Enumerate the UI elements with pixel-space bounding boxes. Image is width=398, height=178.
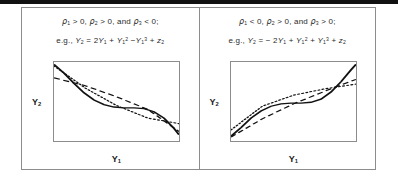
term1-sub: 1 xyxy=(283,40,286,46)
operator-2: + xyxy=(310,36,315,45)
rho-1-relation: < 0, xyxy=(250,17,264,26)
rho-3-relation: > 0; xyxy=(321,17,335,26)
panel-right-plot-area: Y2 xyxy=(200,54,376,150)
term1-sub: 1 xyxy=(104,40,107,46)
rho-1-subscript: 1 xyxy=(67,20,70,26)
rho-1-relation: > 0, xyxy=(73,17,87,26)
x-axis-label-right: Y1 xyxy=(289,154,298,164)
operator-3: + xyxy=(332,36,337,45)
equation-prefix: e.g., xyxy=(228,36,245,45)
equation-lhs-sub: 2 xyxy=(81,40,84,46)
plot-svg-right xyxy=(231,62,356,141)
operator-1: + xyxy=(109,36,114,45)
top-black-bar xyxy=(0,0,398,4)
y-axis-label-left: Y2 xyxy=(32,96,41,106)
equation-prefix: e.g., xyxy=(56,36,73,45)
plot-svg-left xyxy=(54,62,179,141)
plot-box-right xyxy=(230,61,357,142)
x-axis-label-left: Y1 xyxy=(112,154,121,164)
curve-dashed-right xyxy=(231,79,356,137)
panel-right-equation: e.g., Y2 = − 2Y1 + Y12 + Y13 + z2 xyxy=(228,36,346,45)
panel-left-condition: ρ1 > 0, ρ2 > 0, and ρ3 < 0; xyxy=(62,17,159,26)
rho-2-subscript: 2 xyxy=(95,20,98,26)
equation-equals: = xyxy=(86,36,91,45)
panel-left-plot-area: Y2 xyxy=(22,54,199,150)
x-axis-label-sub: 1 xyxy=(295,158,298,164)
curve-solid-left xyxy=(54,64,179,134)
rho-3-subscript: 3 xyxy=(139,20,142,26)
equation-equals: = − xyxy=(258,36,270,45)
rho-1-subscript: 1 xyxy=(244,20,247,26)
x-axis-label-sub: 1 xyxy=(118,158,121,164)
panel-left: ρ1 > 0, ρ2 > 0, and ρ3 < 0; e.g., Y2 = 2… xyxy=(22,8,199,169)
rho-3-subscript: 3 xyxy=(316,20,319,26)
term2-sup: 2 xyxy=(125,36,128,42)
panel-left-equation: e.g., Y2 = 2Y1 + Y12 −Y13 + z2 xyxy=(56,36,164,45)
term3-sup: 3 xyxy=(326,36,329,42)
y-axis-label-sub: 2 xyxy=(38,101,41,107)
term4-sub: 2 xyxy=(343,40,346,46)
plot-box-left xyxy=(53,61,180,142)
term3-sup: 3 xyxy=(144,36,147,42)
curve-dashed-left xyxy=(54,78,179,132)
rho-2-subscript: 2 xyxy=(272,20,275,26)
term2-sup: 2 xyxy=(305,36,308,42)
panel-right: ρ1 < 0, ρ2 > 0, and ρ3 > 0; e.g., Y2 = −… xyxy=(199,8,376,169)
operator-1: + xyxy=(289,36,294,45)
rho-2-relation: > 0, and xyxy=(100,17,131,26)
panel-container: ρ1 > 0, ρ2 > 0, and ρ3 < 0; e.g., Y2 = 2… xyxy=(21,7,376,170)
curve-dotted-right xyxy=(231,84,356,130)
y-axis-label-sub: 2 xyxy=(216,101,219,107)
rho-3-relation: < 0; xyxy=(144,17,158,26)
y-axis-label-right: Y2 xyxy=(210,96,219,106)
operator-3: + xyxy=(150,36,155,45)
term4-sub: 2 xyxy=(161,40,164,46)
equation-lhs-sub: 2 xyxy=(253,40,256,46)
figure-root: ρ1 > 0, ρ2 > 0, and ρ3 < 0; e.g., Y2 = 2… xyxy=(0,0,398,178)
panel-right-condition: ρ1 < 0, ρ2 > 0, and ρ3 > 0; xyxy=(239,17,336,26)
rho-2-relation: > 0, and xyxy=(277,17,308,26)
